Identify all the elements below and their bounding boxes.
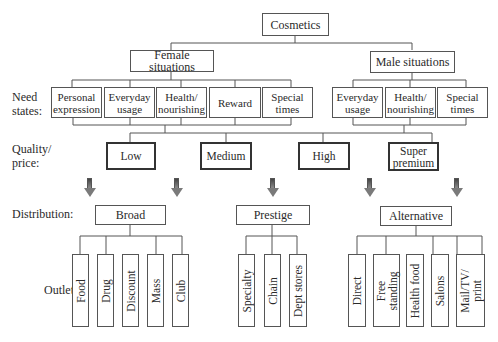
- quality-label: Low: [120, 150, 141, 162]
- outlet-chain: Chain: [264, 254, 281, 327]
- outlet-label: Discount: [125, 270, 137, 312]
- need-state-female-special-times: Special times: [262, 87, 313, 118]
- need-state-female-reward: Reward: [209, 87, 261, 118]
- need-state-label: Personal expression: [53, 91, 100, 115]
- segment-label: Male situations: [376, 56, 450, 68]
- quality-label: High: [313, 150, 336, 162]
- quality-super-premium: Super premium: [388, 142, 439, 171]
- quality-label: Medium: [207, 150, 246, 162]
- outlet-club: Club: [172, 254, 189, 327]
- distribution-label: Alternative: [389, 210, 443, 222]
- need-state-label: Everyday usage: [108, 91, 150, 115]
- quality-high: High: [298, 142, 350, 170]
- distribution-prestige: Prestige: [236, 205, 310, 225]
- segment-female-situations: Female situations: [130, 50, 214, 72]
- outlet-label: Free standing: [375, 271, 399, 310]
- outlet-label: Club: [175, 279, 187, 301]
- outlet-direct: Direct: [348, 254, 366, 327]
- quality-medium: Medium: [200, 142, 252, 170]
- outlet-specialty: Specialty: [238, 254, 255, 327]
- outlet-label: Direct: [351, 276, 363, 305]
- outlet-label: Mass: [150, 278, 162, 302]
- need-state-label: Reward: [218, 97, 252, 109]
- distribution-label: Prestige: [254, 209, 293, 221]
- segment-male-situations: Male situations: [370, 51, 455, 73]
- quality-low: Low: [106, 142, 156, 170]
- distribution-alternative: Alternative: [380, 206, 452, 226]
- outlet-label: Drug: [100, 279, 112, 303]
- root-label: Cosmetics: [271, 19, 321, 31]
- outlet-label: Health food: [409, 263, 421, 318]
- distribution-label: Broad: [116, 209, 145, 221]
- outlet-label: Mail/TV/ print: [459, 269, 483, 312]
- segment-label: Female situations: [131, 49, 213, 73]
- arrow-down-icon: [85, 178, 95, 198]
- need-state-label: Health/ nourishing: [387, 91, 434, 115]
- arrow-down-icon: [268, 178, 278, 198]
- arrow-down-icon: [365, 178, 375, 198]
- need-state-label: Special times: [271, 91, 303, 115]
- need-state-female-everyday-usage: Everyday usage: [104, 87, 155, 118]
- need-state-male-health-nourishing: Health/ nourishing: [385, 87, 436, 118]
- root-node-cosmetics: Cosmetics: [262, 13, 329, 36]
- outlet-drug: Drug: [97, 254, 114, 327]
- row-label-distribution: Distribution:: [12, 207, 73, 221]
- distribution-broad: Broad: [95, 205, 166, 225]
- outlet-label: Food: [75, 279, 87, 303]
- need-state-female-health-nourishing: Health/ nourishing: [156, 87, 207, 118]
- outlet-label: Salons: [434, 275, 446, 306]
- outlet-label: Dept stores: [292, 264, 304, 316]
- need-state-label: Special times: [446, 91, 478, 115]
- outlet-food: Food: [72, 254, 89, 327]
- outlet-mail-tv-print: Mail/TV/ print: [456, 254, 485, 327]
- need-state-male-everyday-usage: Everyday usage: [332, 87, 383, 118]
- quality-label: Super premium: [393, 145, 435, 169]
- outlet-discount: Discount: [122, 254, 139, 327]
- need-state-female-personal-expression: Personal expression: [51, 87, 102, 118]
- row-label-quality-price: Quality/ price:: [12, 142, 51, 170]
- outlet-label: Specialty: [241, 269, 253, 312]
- outlet-health-food: Health food: [406, 254, 424, 327]
- outlet-salons: Salons: [431, 254, 449, 327]
- arrow-down-icon: [452, 178, 462, 198]
- outlet-label: Chain: [267, 277, 279, 304]
- outlet-dept-stores: Dept stores: [289, 254, 307, 327]
- outlet-mass: Mass: [147, 254, 164, 327]
- row-label-need-states: Need states:: [12, 90, 42, 118]
- need-state-label: Everyday usage: [336, 91, 378, 115]
- arrow-down-icon: [172, 178, 182, 198]
- need-state-male-special-times: Special times: [437, 87, 488, 118]
- outlet-free-standing: Free standing: [373, 254, 400, 327]
- need-state-label: Health/ nourishing: [158, 91, 205, 115]
